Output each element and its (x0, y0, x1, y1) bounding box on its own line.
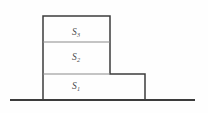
block-subscript-s2: 2 (77, 56, 80, 63)
block-subscript-s3: 3 (77, 31, 80, 38)
block-label-s3: S3 (72, 28, 80, 38)
stepped-solid-outline (43, 16, 145, 100)
blocks-diagram-svg (0, 0, 208, 113)
figure-container: S3 S2 S1 (0, 0, 208, 113)
block-label-s2: S2 (72, 53, 80, 63)
block-label-s1: S1 (72, 82, 80, 92)
block-subscript-s1: 1 (77, 85, 80, 92)
